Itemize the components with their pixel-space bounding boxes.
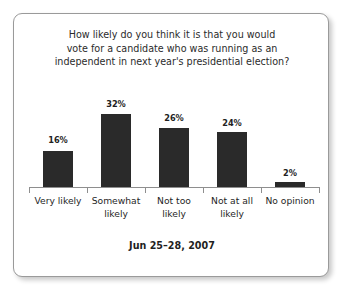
bar-group: 2%: [261, 14, 319, 187]
bar-group: 32%: [87, 14, 145, 187]
bar[interactable]: [217, 132, 247, 187]
category-label-line: likely: [203, 208, 261, 221]
category-label: Somewhat likely: [87, 195, 145, 220]
bar[interactable]: [275, 182, 305, 187]
category-label: No opinion: [261, 195, 319, 208]
bar-group: 24%: [203, 14, 261, 187]
category-label-line: likely: [87, 208, 145, 221]
bar[interactable]: [101, 114, 131, 187]
category-label-line: No opinion: [261, 195, 319, 208]
category-label-line: Very likely: [29, 195, 87, 208]
category-label-line: Somewhat: [87, 195, 145, 208]
axis-tick: [203, 188, 204, 193]
category-label-line: Not too: [145, 195, 203, 208]
bar-value-label: 32%: [106, 99, 126, 109]
category-label-line: Not at all: [203, 195, 261, 208]
axis-tick: [145, 188, 146, 193]
category-label: Not at all likely: [203, 195, 261, 220]
bar-value-label: 24%: [222, 118, 242, 128]
axis-tick: [87, 188, 88, 193]
bar-value-label: 16%: [48, 135, 68, 145]
category-label: Very likely: [29, 195, 87, 208]
bar-value-label: 2%: [283, 168, 297, 178]
bar[interactable]: [43, 151, 73, 188]
bar[interactable]: [159, 128, 189, 187]
chart-footer-date: Jun 25–28, 2007: [22, 240, 322, 251]
chart-card: How likely do you think it is that you w…: [13, 13, 329, 277]
category-label: Not too likely: [145, 195, 203, 220]
bar-group: 26%: [145, 14, 203, 187]
axis-tick: [319, 188, 320, 193]
plot-area: 16% Very likely 32% Somewhat likely 26% …: [14, 14, 330, 278]
bar-value-label: 26%: [164, 113, 184, 123]
bar-group: 16%: [29, 14, 87, 187]
axis-tick: [29, 188, 30, 193]
category-label-line: likely: [145, 208, 203, 221]
axis-tick: [261, 188, 262, 193]
